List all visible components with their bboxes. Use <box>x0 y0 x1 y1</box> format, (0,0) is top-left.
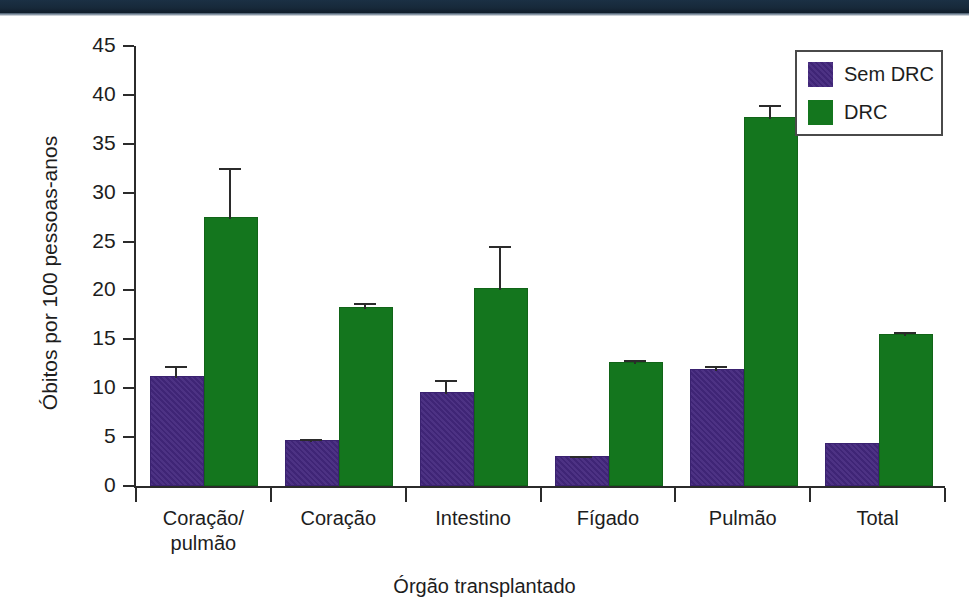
bar-sem-drc <box>825 443 879 486</box>
y-axis-tick-label: 0 <box>60 473 116 497</box>
y-axis-tick-label: 15 <box>60 326 116 350</box>
bar-drc <box>609 362 663 486</box>
bar-sem-drc <box>555 456 609 486</box>
error-bar-cap <box>219 168 241 170</box>
legend-swatch-sem-drc <box>808 62 833 87</box>
y-axis-title: Óbitos por 100 pessoas-anos <box>38 73 62 473</box>
x-axis-separator <box>135 488 137 502</box>
error-bar-cap <box>759 105 781 107</box>
y-axis-tick <box>123 241 134 243</box>
legend-item-sem-drc: Sem DRC <box>808 62 934 87</box>
error-bar-cap <box>489 246 511 248</box>
plot-area: 051015202530354045 Óbitos por 100 pessoa… <box>0 16 969 611</box>
x-axis-separator <box>674 488 676 502</box>
x-axis-separator <box>944 488 946 502</box>
x-axis-category-label: Pulmão <box>675 506 810 531</box>
bar-drc <box>204 217 258 486</box>
chart-page: 051015202530354045 Óbitos por 100 pessoa… <box>0 0 969 611</box>
y-axis-tick <box>123 436 134 438</box>
error-bar-cap <box>165 366 187 368</box>
y-axis-tick-label: 40 <box>60 82 116 106</box>
chart-legend: Sem DRC DRC <box>795 50 943 136</box>
bar-sem-drc <box>285 440 339 486</box>
legend-item-drc: DRC <box>808 100 887 125</box>
y-axis-tick-label: 35 <box>60 131 116 155</box>
bar-sem-drc <box>420 392 474 486</box>
error-bar-cap <box>570 456 592 458</box>
error-bar-line <box>499 246 501 290</box>
y-axis-line <box>134 46 136 487</box>
y-axis-tick <box>123 192 134 194</box>
y-axis-tick-label: 25 <box>60 229 116 253</box>
error-bar-cap <box>624 360 646 362</box>
error-bar-cap <box>894 332 916 334</box>
x-axis-category-label: Coração <box>271 506 406 531</box>
legend-label-drc: DRC <box>844 101 887 124</box>
bar-drc <box>879 334 933 486</box>
x-axis-title: Órgão transplantado <box>0 575 969 598</box>
x-axis-category-label: Intestino <box>406 506 541 531</box>
y-axis-tick <box>123 45 134 47</box>
y-axis-tick <box>123 387 134 389</box>
x-axis-separator <box>809 488 811 502</box>
x-axis-separator <box>540 488 542 502</box>
error-bar-cap <box>300 439 322 441</box>
y-axis-tick-label: 10 <box>60 375 116 399</box>
error-bar-line <box>769 105 771 120</box>
legend-swatch-drc <box>808 100 833 125</box>
error-bar-cap <box>705 366 727 368</box>
y-axis-tick <box>123 485 134 487</box>
bar-drc <box>339 307 393 486</box>
x-axis-separator <box>405 488 407 502</box>
error-bar-cap <box>435 380 457 382</box>
bar-sem-drc <box>690 369 744 486</box>
y-axis-tick <box>123 143 134 145</box>
x-axis-category-label: Total <box>810 506 945 531</box>
error-bar-cap <box>354 303 376 305</box>
y-axis-tick-label: 20 <box>60 277 116 301</box>
x-axis-category-label: Fígado <box>541 506 676 531</box>
y-axis-tick-label: 5 <box>60 424 116 448</box>
y-axis-tick <box>123 289 134 291</box>
scanned-page-banner <box>0 0 969 13</box>
y-axis-tick-label: 30 <box>60 180 116 204</box>
bar-sem-drc <box>150 376 204 486</box>
y-axis-tick <box>123 338 134 340</box>
legend-label-sem-drc: Sem DRC <box>844 63 934 86</box>
error-bar-line <box>445 380 447 394</box>
error-bar-line <box>229 168 231 219</box>
bar-drc <box>474 288 528 486</box>
y-axis-tick-label: 45 <box>60 33 116 57</box>
bar-drc <box>744 117 798 486</box>
y-axis-tick <box>123 94 134 96</box>
x-axis-category-label: Coração/ pulmão <box>136 506 271 556</box>
x-axis-separator <box>270 488 272 502</box>
